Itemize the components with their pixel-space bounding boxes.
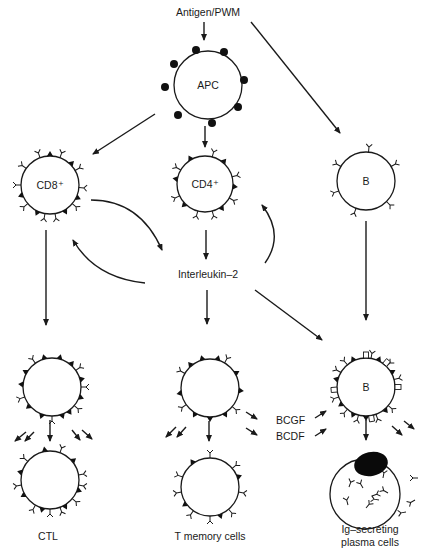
- arrow-il2-to-cd8: [73, 240, 145, 283]
- ctl-label: CTL: [38, 530, 58, 542]
- arrow-il2-to-cd4: [262, 205, 274, 263]
- apc-label: APC: [197, 79, 219, 91]
- ctl-parent-cell: [16, 353, 89, 424]
- ig-secreting-label: Ig–secreting: [341, 523, 398, 535]
- b-cell: B: [330, 144, 399, 217]
- arrow-il2-to-activated-b: [255, 290, 322, 340]
- arrow-cd8-to-il2: [91, 200, 162, 250]
- cd8-cell: CD8⁺: [13, 149, 87, 222]
- t-memory-cells-label: T memory cells: [175, 530, 246, 542]
- cd4-label: CD4⁺: [191, 178, 218, 190]
- b-proliferation-arrows: [366, 420, 414, 440]
- t-memory-cell: [173, 450, 247, 524]
- bcdf-label: BCDF: [276, 430, 305, 442]
- bcgf-bcdf-arrows: [315, 411, 326, 436]
- t-helper-activated-cell: [176, 354, 244, 422]
- bcgf-label: BCGF: [276, 414, 305, 426]
- antigen-pwm-label: Antigen/PWM: [176, 6, 240, 18]
- b-cell-label: B: [362, 175, 369, 187]
- arrow-apc-to-cd8: [93, 114, 155, 154]
- immune-response-diagram: Antigen/PWM APC: [0, 0, 431, 553]
- ctl-cell: [13, 444, 87, 517]
- interleukin-2-label: Interleukin–2: [178, 268, 238, 280]
- plasma-cell: [330, 449, 418, 529]
- activated-b-cell: B: [330, 350, 402, 423]
- arrow-antigen-to-b: [251, 22, 340, 133]
- cd8-label: CD8⁺: [36, 179, 63, 191]
- apc-cell: APC: [161, 46, 248, 127]
- cd4-cell: CD4⁺: [171, 148, 240, 219]
- activated-b-label: B: [362, 381, 369, 393]
- plasma-cells-label: plasma cells: [341, 536, 399, 548]
